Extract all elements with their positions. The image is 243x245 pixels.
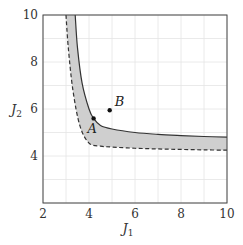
y-tick-label: 8 [30, 55, 38, 69]
x-axis-label: J1 [120, 221, 134, 238]
y-tick-label: 10 [23, 8, 38, 22]
x-tick-label: 10 [219, 207, 234, 221]
x-tick-label: 4 [85, 207, 93, 221]
x-tick-label: 6 [131, 207, 139, 221]
axis-ticks: 24681046810 [23, 8, 235, 221]
point-b-marker [108, 108, 112, 112]
y-axis-label: J2 [8, 102, 22, 119]
point-b-label: B [114, 94, 125, 109]
point-a-label: A [87, 121, 97, 136]
point-a-marker [91, 116, 95, 120]
x-tick-label: 8 [177, 207, 185, 221]
y-tick-label: 6 [30, 102, 38, 116]
x-tick-label: 2 [39, 207, 47, 221]
pareto-chart: 24681046810 A B J1 J2 [0, 0, 243, 245]
y-tick-label: 4 [30, 149, 38, 163]
